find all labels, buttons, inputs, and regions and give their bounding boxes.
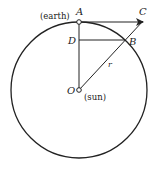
label-r: r xyxy=(108,60,113,69)
label-D: D xyxy=(67,35,76,46)
label-O: O xyxy=(67,85,75,96)
label-A: A xyxy=(75,6,83,17)
label-sun: (sun) xyxy=(84,92,106,102)
sun-point xyxy=(77,88,82,93)
label-earth: (earth) xyxy=(40,11,70,21)
label-C: C xyxy=(139,6,147,17)
earth-point xyxy=(77,20,82,25)
orbit-diagram: A (earth) C D B r O (sun) xyxy=(0,0,157,169)
radius-OB-extended xyxy=(79,21,143,90)
label-B: B xyxy=(128,36,136,47)
